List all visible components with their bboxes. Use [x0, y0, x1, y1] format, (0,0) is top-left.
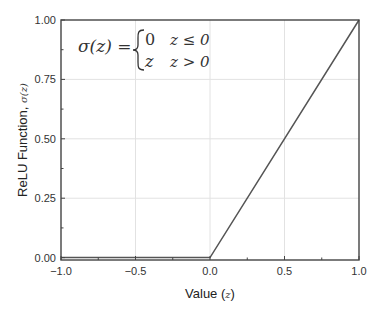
equation-lhs: σ(z) = — [78, 36, 131, 56]
equation-case2-value: z — [144, 52, 154, 71]
y-tick-label: 0.25 — [35, 192, 56, 204]
y-tick-label: 0.50 — [35, 133, 56, 145]
equation-case2-condition: z > 0 — [169, 53, 210, 71]
y-axis-title: ReLU Function, σ(z) — [15, 83, 30, 197]
grid-lines — [61, 20, 359, 260]
equation-case1-condition: z ≤ 0 — [169, 31, 210, 49]
x-tick-labels: −1.0−0.50.00.51.0 — [50, 265, 367, 277]
y-tick-labels: 0.000.250.500.751.00 — [35, 14, 56, 264]
x-tick-label: −1.0 — [50, 265, 72, 277]
equation-brace — [133, 30, 144, 70]
relu-chart: −1.0−0.50.00.51.0 0.000.250.500.751.00 σ… — [0, 0, 384, 312]
x-tick-label: −0.5 — [125, 265, 147, 277]
equation-case1-value: 0 — [145, 30, 155, 49]
x-tick-label: 0.5 — [277, 265, 292, 277]
y-tick-label: 0.75 — [35, 73, 56, 85]
equation-annotation: σ(z) = 0 z ≤ 0 z z > 0 — [78, 30, 210, 71]
y-tick-label: 0.00 — [35, 252, 56, 264]
y-tick-label: 1.00 — [35, 14, 56, 26]
x-tick-label: 1.0 — [351, 265, 366, 277]
x-tick-label: 0.0 — [202, 265, 217, 277]
x-axis-title: Value (z) — [185, 286, 235, 301]
